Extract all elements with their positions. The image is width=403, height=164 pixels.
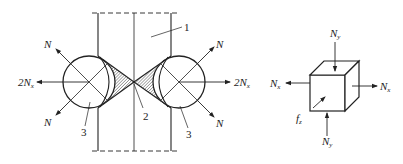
leader-part-3-right <box>180 106 188 128</box>
force-2Nx-left-label: 2Nx <box>18 76 35 90</box>
force-Ny-top-label: Ny <box>329 27 341 41</box>
part-2-label: 2 <box>143 110 149 122</box>
force-Ny-bottom-label: Ny <box>321 135 333 149</box>
leader-part-1 <box>151 27 182 37</box>
force-N-upper-left-label: N <box>43 38 52 50</box>
force-N-lower-left-arrow <box>56 100 71 115</box>
force-N-lower-right-arrow <box>197 100 214 117</box>
part-3-left-label: 3 <box>81 126 87 138</box>
force-2Nx-right-label: 2Nx <box>234 76 251 90</box>
force-N-upper-right-arrow <box>197 47 214 64</box>
force-Nx-left-label: Nx <box>269 77 281 91</box>
shear-fz-label: fz <box>296 112 302 126</box>
force-N-upper-left-arrow <box>56 49 71 64</box>
force-N-upper-right-label: N <box>215 38 224 50</box>
force-N-lower-right-label: N <box>215 117 224 129</box>
force-N-lower-left-label: N <box>43 116 52 128</box>
roller-seam-diagram <box>37 13 230 151</box>
part-3-right-label: 3 <box>186 128 192 140</box>
part-1-label: 1 <box>184 21 190 33</box>
diagram-canvas: 1 2 3 3 N N N N 2Nx 2Nx Ny Ny Nx Nx fz <box>0 0 403 164</box>
force-Nx-right-label: Nx <box>379 80 391 94</box>
